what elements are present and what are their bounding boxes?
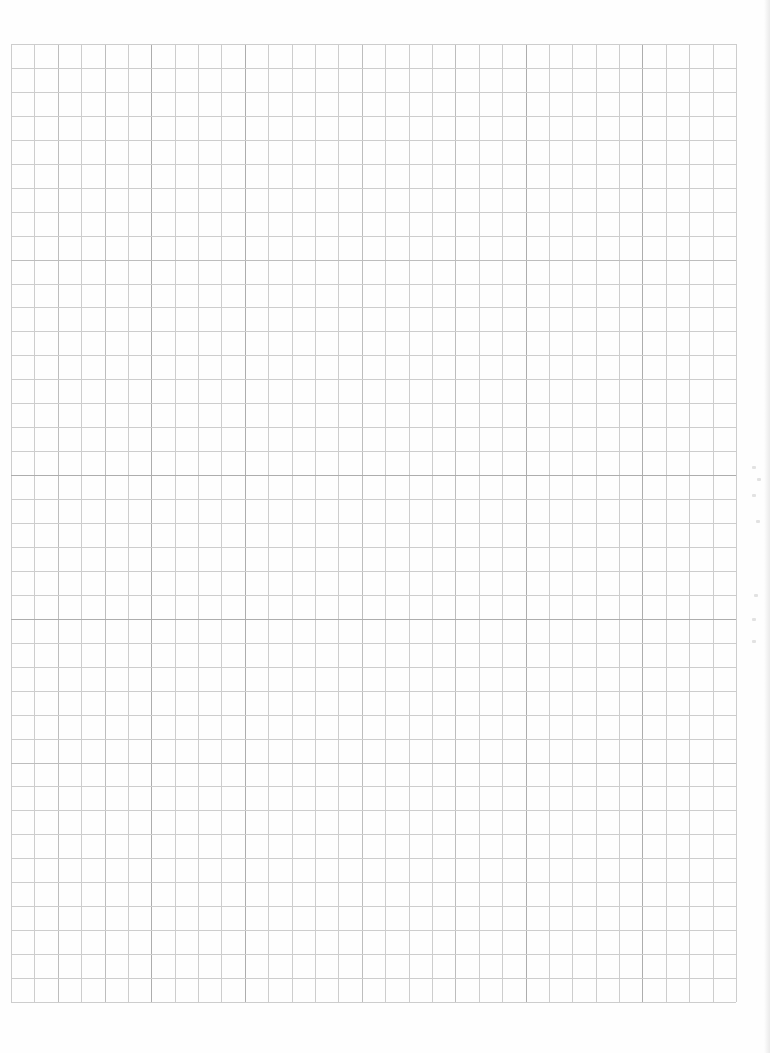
grid-horizontal-line: [11, 954, 736, 955]
grid-horizontal-line: [11, 834, 736, 835]
grid-horizontal-line: [11, 92, 736, 93]
grid-horizontal-line: [11, 499, 736, 500]
grid-horizontal-line: [11, 906, 736, 907]
grid-horizontal-line: [11, 930, 736, 931]
grid-horizontal-line: [11, 882, 736, 883]
grid-horizontal-line: [11, 475, 736, 476]
grid-horizontal-line: [11, 427, 736, 428]
grid-horizontal-line: [11, 595, 736, 596]
grid-horizontal-line: [11, 739, 736, 740]
grid-horizontal-line: [11, 715, 736, 716]
grid-horizontal-line: [11, 619, 736, 620]
grid-horizontal-line: [11, 44, 736, 45]
grid-horizontal-line: [11, 451, 736, 452]
grid-horizontal-line: [11, 858, 736, 859]
grid-horizontal-line: [11, 68, 736, 69]
grid: [11, 44, 736, 1002]
grid-horizontal-line: [11, 786, 736, 787]
grid-horizontal-line: [11, 571, 736, 572]
bleed-mark: [752, 640, 756, 643]
grid-horizontal-line: [11, 331, 736, 332]
grid-horizontal-line: [11, 355, 736, 356]
bleed-mark: [754, 594, 758, 597]
graph-paper-sheet: [0, 0, 770, 1053]
grid-horizontal-line: [11, 763, 736, 764]
grid-horizontal-line: [11, 188, 736, 189]
grid-horizontal-line: [11, 667, 736, 668]
grid-horizontal-line: [11, 236, 736, 237]
grid-horizontal-line: [11, 307, 736, 308]
grid-horizontal-line: [11, 260, 736, 261]
grid-horizontal-line: [11, 547, 736, 548]
grid-horizontal-line: [11, 1002, 736, 1003]
page-edge-shadow: [764, 0, 770, 1053]
bleed-mark: [752, 494, 756, 497]
grid-horizontal-line: [11, 379, 736, 380]
grid-horizontal-line: [11, 523, 736, 524]
grid-horizontal-line: [11, 212, 736, 213]
bleed-mark: [752, 466, 756, 469]
bleed-mark: [756, 520, 760, 523]
grid-horizontal-line: [11, 403, 736, 404]
grid-horizontal-line: [11, 164, 736, 165]
grid-horizontal-line: [11, 978, 736, 979]
grid-horizontal-line: [11, 643, 736, 644]
grid-horizontal-line: [11, 140, 736, 141]
bleed-mark: [757, 478, 761, 481]
bleed-mark: [752, 618, 756, 621]
grid-horizontal-line: [11, 691, 736, 692]
grid-vertical-line: [736, 44, 737, 1002]
grid-horizontal-line: [11, 810, 736, 811]
grid-horizontal-line: [11, 284, 736, 285]
grid-horizontal-line: [11, 116, 736, 117]
